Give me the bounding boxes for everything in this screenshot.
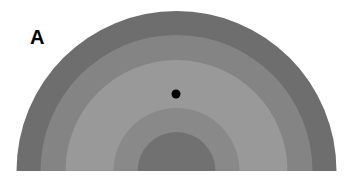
black-dot-marker [172,90,181,99]
semicircle-diagram [0,0,357,184]
panel-label: A [30,27,44,47]
